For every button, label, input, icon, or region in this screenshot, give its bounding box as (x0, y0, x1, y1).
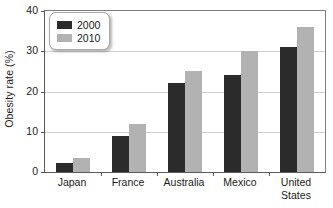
y-axis-tick-label: 40 (26, 4, 38, 16)
legend: 2000 2010 (49, 12, 110, 50)
bar (129, 124, 146, 172)
x-axis-category-labels: JapanFranceAustraliaMexicoUnited States (44, 176, 326, 208)
legend-swatch-2010-icon (57, 34, 72, 42)
bar (241, 51, 258, 172)
bar (280, 47, 297, 172)
y-axis-tick-mark (41, 132, 45, 133)
y-axis-tick-label: 20 (26, 85, 38, 97)
bar (56, 163, 73, 172)
x-axis-category-label: Mexico (212, 176, 268, 189)
legend-swatch-2000-icon (57, 21, 72, 29)
legend-label: 2010 (77, 32, 100, 44)
y-axis-tick-label: 30 (26, 44, 38, 56)
bar (73, 158, 90, 172)
y-axis-tick-mark (41, 92, 45, 93)
x-axis-category-label: United States (268, 176, 324, 201)
bar (112, 136, 129, 172)
y-axis-title: Obesity rate (%) (0, 0, 18, 178)
x-axis-category-label: Japan (44, 176, 100, 189)
bar (297, 27, 314, 172)
legend-label: 2000 (77, 19, 100, 31)
y-axis-tick-labels: 010203040 (18, 0, 42, 178)
bar (224, 75, 241, 172)
y-axis-tick-label: 0 (32, 165, 38, 177)
y-axis-title-text: Obesity rate (%) (3, 50, 15, 127)
x-axis-category-label: France (100, 176, 156, 189)
legend-item: 2010 (57, 31, 100, 44)
y-axis-tick-mark (41, 172, 45, 173)
y-axis-tick-label: 10 (26, 125, 38, 137)
legend-item: 2000 (57, 18, 100, 31)
y-axis-tick-mark (41, 51, 45, 52)
x-axis-category-label: Australia (156, 176, 212, 189)
bar-chart: Obesity rate (%) 010203040 JapanFranceAu… (0, 0, 333, 208)
bar (168, 83, 185, 172)
y-axis-tick-mark (41, 11, 45, 12)
bar (185, 71, 202, 172)
